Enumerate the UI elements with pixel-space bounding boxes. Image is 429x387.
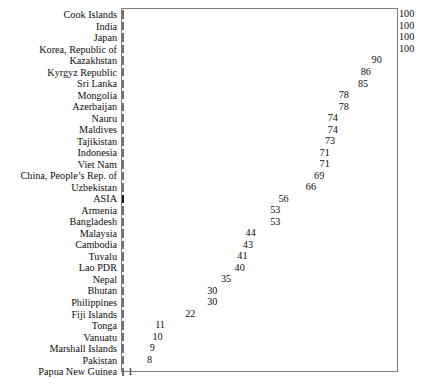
bar-track	[122, 241, 240, 249]
bar-track	[122, 264, 232, 272]
bar-fill	[122, 344, 124, 352]
bar-value-label: 11	[155, 319, 165, 331]
bar-row: Tuvalu41	[0, 251, 429, 263]
bar-fill	[122, 80, 124, 88]
bar-value-label: 56	[278, 193, 288, 205]
bar-value-label: 74	[328, 124, 338, 136]
category-label: Malaysia	[0, 228, 117, 240]
bar-row: Tajikistan73	[0, 136, 429, 148]
category-label: Nauru	[0, 113, 117, 125]
bar-track	[122, 80, 355, 88]
bar-track	[122, 310, 182, 318]
category-label: Azerbaijan	[0, 101, 117, 113]
bar-value-label: 53	[270, 216, 280, 228]
bar-fill	[122, 91, 124, 99]
bar-track	[122, 103, 336, 111]
bar-track	[122, 45, 396, 53]
bar-fill	[122, 333, 124, 341]
bar-row: Marshall Islands9	[0, 343, 429, 355]
bar-chart-figure: Cook Islands100India100Japan100Korea, Re…	[0, 0, 429, 387]
category-label: Armenia	[0, 205, 117, 217]
bar-value-label: 78	[339, 101, 349, 113]
bar-value-label: 85	[358, 78, 368, 90]
bar-value-label: 71	[320, 158, 330, 170]
bar-value-label: 53	[270, 204, 280, 216]
bar-fill	[122, 149, 124, 157]
category-label: Nepal	[0, 274, 117, 286]
bar-value-label: 9	[150, 342, 155, 354]
bar-fill	[122, 22, 124, 30]
bar-row: Philippines30	[0, 297, 429, 309]
category-label: Fiji Islands	[0, 309, 117, 321]
bar-row: ASIA56	[0, 193, 429, 205]
bar-fill	[122, 33, 124, 41]
bar-row: Bangladesh53	[0, 216, 429, 228]
bar-fill	[122, 356, 124, 364]
bar-fill	[122, 264, 124, 272]
bar-row: Fiji Islands22	[0, 309, 429, 321]
bar-row: Tonga11	[0, 320, 429, 332]
bar-track	[122, 91, 336, 99]
bar-value-label: 30	[207, 285, 217, 297]
category-label: Vanuatu	[0, 332, 117, 344]
bar-value-label: 1	[128, 366, 133, 378]
bar-row: Papua New Guinea1	[0, 366, 429, 378]
bar-value-label: 22	[185, 308, 195, 320]
bar-fill	[122, 310, 124, 318]
bar-row: Nauru74	[0, 113, 429, 125]
bar-row: Indonesia71	[0, 147, 429, 159]
bar-fill	[122, 137, 124, 145]
bar-track	[122, 287, 204, 295]
bar-fill	[122, 252, 124, 260]
bar-track	[122, 229, 243, 237]
category-label: Japan	[0, 32, 117, 44]
category-label: Viet Nam	[0, 159, 117, 171]
bar-fill	[122, 241, 124, 249]
bar-value-label: 100	[399, 31, 414, 43]
category-label: Tuvalu	[0, 251, 117, 263]
category-label: Uzbekistan	[0, 182, 117, 194]
category-label: Bangladesh	[0, 216, 117, 228]
bar-track	[122, 172, 311, 180]
bar-fill	[122, 68, 124, 76]
category-label: Philippines	[0, 297, 117, 309]
bar-value-label: 100	[399, 20, 414, 32]
category-label: Mongolia	[0, 90, 117, 102]
bar-track	[122, 56, 369, 64]
bar-track	[122, 195, 275, 203]
bar-value-label: 10	[152, 331, 162, 343]
bar-value-label: 69	[314, 170, 324, 182]
bar-track	[122, 126, 325, 134]
category-label: Tajikistan	[0, 136, 117, 148]
bar-fill	[122, 114, 124, 122]
bar-track	[122, 218, 267, 226]
category-label: Kyrgyz Republic	[0, 67, 117, 79]
bar-fill	[122, 368, 124, 376]
bar-row: Kyrgyz Republic86	[0, 67, 429, 79]
bar-value-label: 40	[235, 262, 245, 274]
bar-value-label: 41	[237, 250, 247, 262]
bar-row: Bhutan30	[0, 285, 429, 297]
bars-layer: Cook Islands100India100Japan100Korea, Re…	[0, 0, 429, 387]
category-label: Papua New Guinea	[0, 366, 117, 378]
bar-row: Uzbekistan66	[0, 182, 429, 194]
bar-track	[122, 137, 322, 145]
bar-fill	[122, 172, 124, 180]
bar-row: India100	[0, 21, 429, 33]
category-label: India	[0, 21, 117, 33]
bar-fill	[122, 218, 124, 226]
category-label: Marshall Islands	[0, 343, 117, 355]
category-label: Maldives	[0, 124, 117, 136]
bar-fill-highlight	[122, 195, 124, 203]
bar-row: Malaysia44	[0, 228, 429, 240]
bar-row: Viet Nam71	[0, 159, 429, 171]
bar-fill	[122, 298, 124, 306]
bar-value-label: 78	[339, 89, 349, 101]
category-label: China, People’s Rep. of	[0, 170, 117, 182]
bar-fill	[122, 45, 124, 53]
bar-value-label: 44	[246, 227, 256, 239]
bar-value-label: 74	[328, 112, 338, 124]
bar-track	[122, 68, 358, 76]
bar-fill	[122, 287, 124, 295]
category-label: Bhutan	[0, 285, 117, 297]
